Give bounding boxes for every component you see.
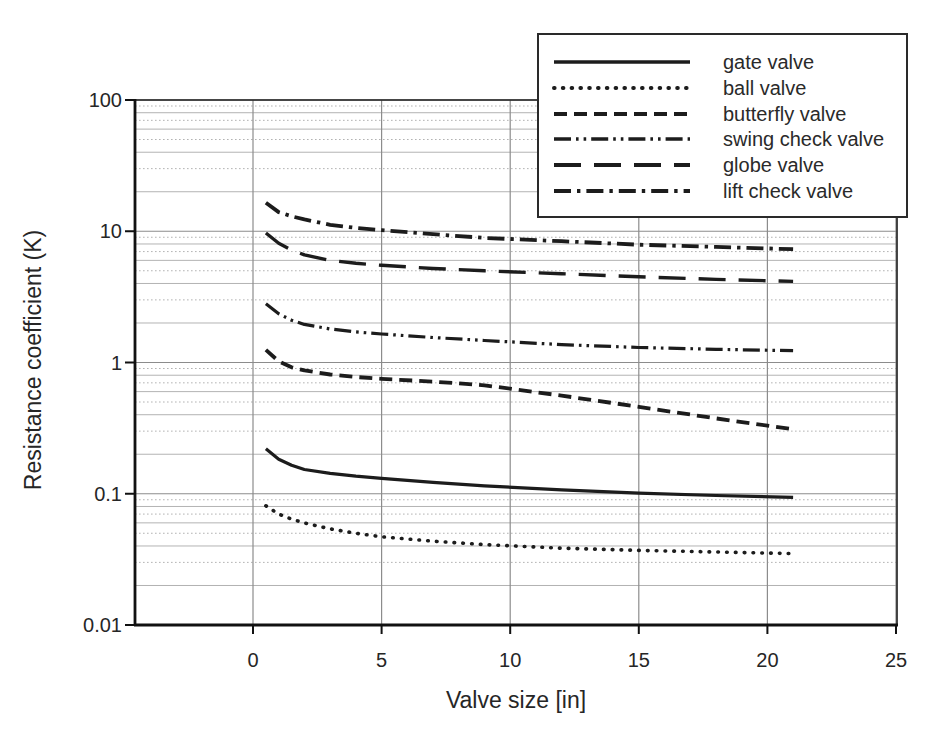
legend-line-sample-dotted: [552, 83, 692, 93]
curve-swing-check-valve: [266, 304, 793, 351]
x-tick-label-0: 0: [213, 648, 293, 672]
legend-item-lift-check-valve: lift check valve: [539, 178, 906, 204]
legend-line-sample-long-dash: [552, 160, 692, 170]
curve-gate-valve: [266, 449, 793, 498]
curve-butterfly-valve: [266, 350, 793, 430]
legend-item-butterfly-valve: butterfly valve: [539, 101, 906, 127]
legend-item-gate-valve: gate valve: [539, 49, 906, 75]
legend-label: butterfly valve: [723, 102, 846, 126]
chart-canvas: 1001010.10.010510152025 Valve size [in] …: [0, 0, 939, 741]
legend-line-sample-dash-dot-dot: [552, 134, 692, 144]
y-axis-title: Resistance coefficient (K): [20, 230, 47, 490]
x-axis-title: Valve size [in]: [446, 687, 586, 714]
legend-item-globe-valve: globe valve: [539, 152, 906, 178]
x-tick-label-15: 15: [599, 648, 679, 672]
legend-line-sample-dashed: [552, 109, 692, 119]
legend-label: gate valve: [723, 50, 814, 74]
y-tick-label-100: 100: [30, 88, 122, 112]
legend-line-sample-solid: [552, 57, 692, 67]
x-tick-label-20: 20: [727, 648, 807, 672]
x-tick-label-10: 10: [470, 648, 550, 672]
legend-item-ball-valve: ball valve: [539, 75, 906, 101]
x-tick-label-5: 5: [342, 648, 422, 672]
legend: gate valveball valvebutterfly valveswing…: [537, 33, 908, 218]
legend-item-swing-check-valve: swing check valve: [539, 126, 906, 152]
legend-line-sample-dash-dot: [552, 186, 692, 196]
legend-label: swing check valve: [723, 127, 884, 151]
x-tick-label-25: 25: [856, 648, 936, 672]
legend-label: globe valve: [723, 153, 824, 177]
y-tick-label-0.01: 0.01: [30, 613, 122, 637]
legend-label: ball valve: [723, 76, 806, 100]
legend-label: lift check valve: [723, 179, 853, 203]
